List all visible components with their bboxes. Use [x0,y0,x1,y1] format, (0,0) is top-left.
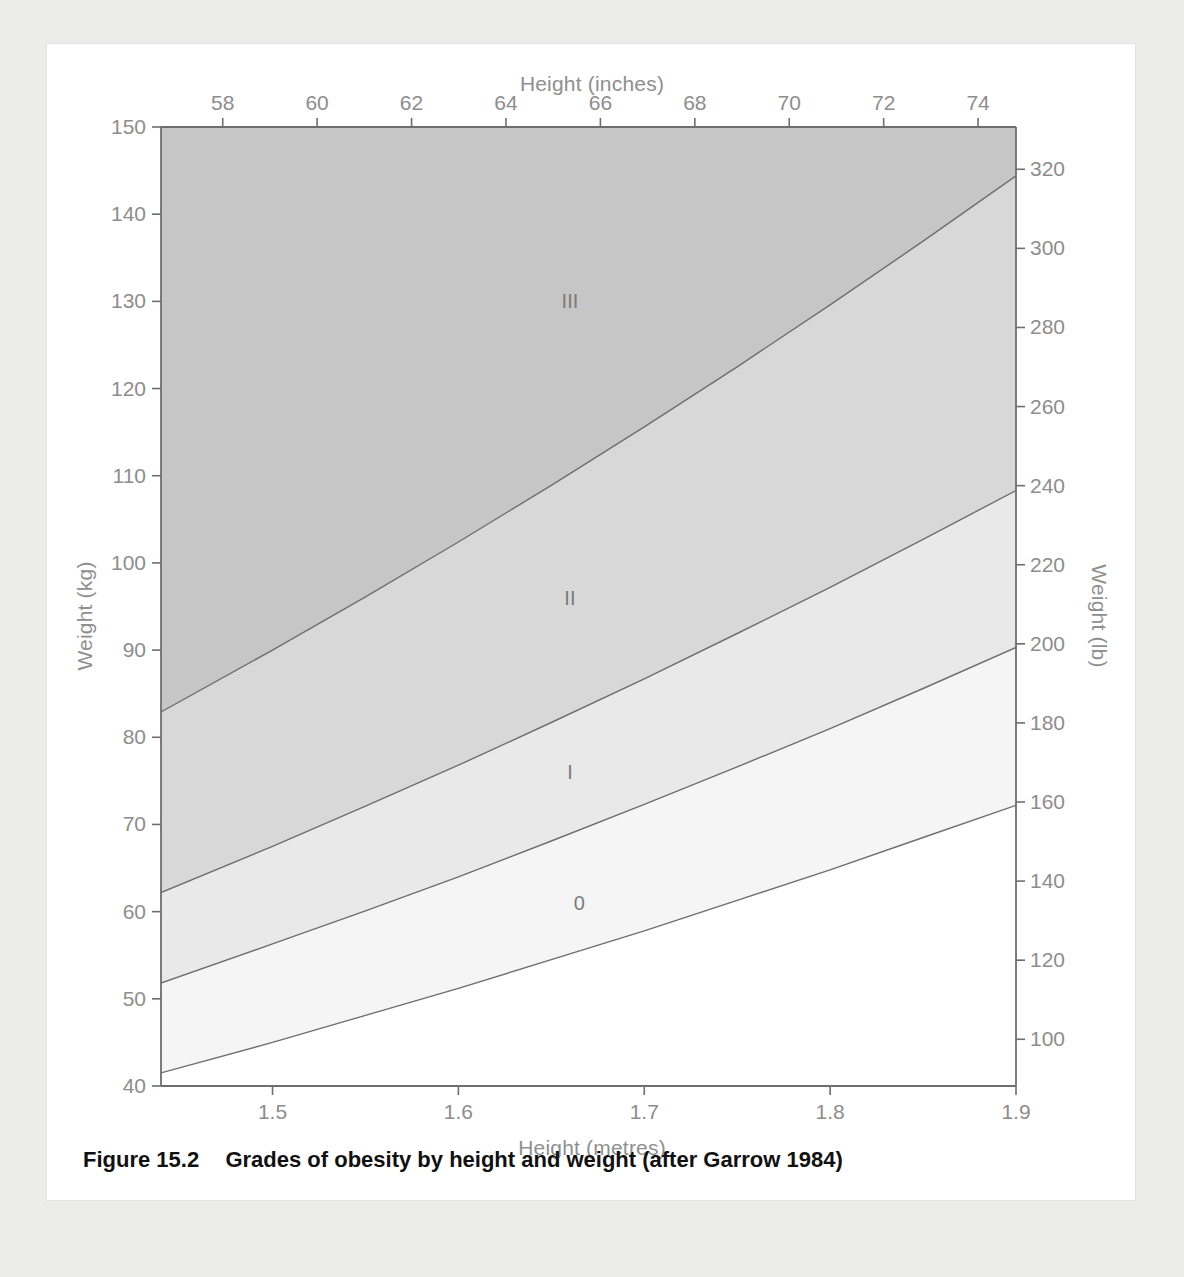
y-tick-kg-50: 50 [123,987,146,1011]
y-tick-lb-160: 160 [1030,790,1065,814]
chart-plot-svg [47,44,1137,1202]
y-tick-kg-60: 60 [123,900,146,924]
figure-number: Figure 15.2 [83,1147,199,1172]
y-tick-kg-70: 70 [123,812,146,836]
y-tick-lb-200: 200 [1030,632,1065,656]
y-tick-kg-80: 80 [123,725,146,749]
left-axis-title: Weight (kg) [73,516,97,716]
x-tick-metres-1.9: 1.9 [1001,1100,1030,1124]
y-tick-kg-90: 90 [123,638,146,662]
y-tick-lb-180: 180 [1030,711,1065,735]
y-tick-kg-150: 150 [111,115,146,139]
x-tick-inches-68: 68 [683,91,706,115]
grade-iii-region-label: III [562,290,579,313]
y-tick-kg-100: 100 [111,551,146,575]
obesity-grade-chart: Height (inches) Height (metres) Weight (… [47,44,1137,1202]
y-tick-lb-320: 320 [1030,157,1065,181]
x-tick-inches-74: 74 [966,91,989,115]
y-tick-lb-280: 280 [1030,315,1065,339]
x-tick-inches-58: 58 [211,91,234,115]
y-tick-lb-120: 120 [1030,948,1065,972]
x-tick-inches-72: 72 [872,91,895,115]
y-tick-lb-300: 300 [1030,236,1065,260]
figure-caption: Figure 15.2 Grades of obesity by height … [83,1147,1103,1173]
y-tick-kg-110: 110 [113,464,146,488]
grade-ii-region-label: II [564,586,575,609]
y-tick-lb-240: 240 [1030,474,1065,498]
y-tick-lb-140: 140 [1030,869,1065,893]
figure-caption-text: Grades of obesity by height and weight (… [225,1147,842,1172]
y-tick-lb-260: 260 [1030,395,1065,419]
x-tick-inches-64: 64 [494,91,517,115]
x-tick-inches-60: 60 [305,91,328,115]
page-background: Height (inches) Height (metres) Weight (… [0,0,1184,1277]
y-tick-lb-220: 220 [1030,553,1065,577]
x-tick-metres-1.7: 1.7 [630,1100,659,1124]
grade-i-region-label: I [567,761,573,784]
y-tick-kg-120: 120 [111,377,146,401]
figure-card: Height (inches) Height (metres) Weight (… [46,43,1136,1201]
x-tick-metres-1.8: 1.8 [816,1100,845,1124]
x-tick-inches-70: 70 [778,91,801,115]
right-axis-title: Weight (lb) [1087,516,1111,716]
x-tick-inches-62: 62 [400,91,423,115]
grade-0-region-label: 0 [574,891,585,914]
y-tick-lb-100: 100 [1030,1027,1065,1051]
x-tick-metres-1.6: 1.6 [444,1100,473,1124]
x-tick-metres-1.5: 1.5 [258,1100,287,1124]
y-tick-kg-130: 130 [111,289,146,313]
x-tick-inches-66: 66 [589,91,612,115]
y-tick-kg-40: 40 [123,1074,146,1098]
y-tick-kg-140: 140 [111,202,146,226]
